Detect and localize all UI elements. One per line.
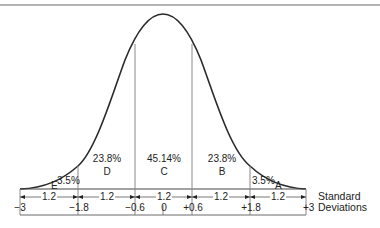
- axis-label-line2: Deviations: [318, 202, 367, 213]
- tick-minus-1-8: −1.8: [69, 202, 89, 213]
- tick-plus-0-6: +0.6: [183, 202, 203, 213]
- region-b-percent: 23.8%: [208, 153, 236, 164]
- interval-label-2: 1.2: [99, 191, 115, 202]
- interval-label-4: 1.2: [213, 191, 229, 202]
- region-a-letter: A: [275, 180, 282, 191]
- tick-zero: 0: [161, 202, 167, 213]
- region-c-percent: 45.14%: [147, 153, 181, 164]
- region-d-percent: 23.8%: [93, 153, 121, 164]
- tick-plus-3: +3: [303, 202, 314, 213]
- region-d-letter: D: [103, 166, 110, 177]
- region-b-letter: B: [219, 166, 226, 177]
- interval-label-3: 1.2: [156, 191, 172, 202]
- tick-plus-1-8: +1.8: [241, 202, 261, 213]
- region-e-percent: 3.5%: [57, 175, 80, 186]
- region-c-letter: C: [160, 166, 167, 177]
- interval-label-5: 1.2: [270, 191, 286, 202]
- interval-label-1: 1.2: [41, 191, 57, 202]
- tick-minus-3: −3: [14, 202, 25, 213]
- region-a-percent: 3.5%: [252, 175, 275, 186]
- tick-minus-0-6: −0.6: [125, 202, 145, 213]
